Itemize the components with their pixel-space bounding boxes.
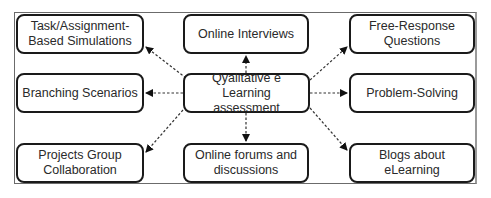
node-blogs-elearning: Blogs about eLearning — [349, 143, 475, 183]
node-branching-scenarios: Branching Scenarios — [16, 73, 144, 113]
node-label-line2: Questions — [369, 34, 455, 49]
node-label-line2: discussions — [195, 163, 297, 178]
edge-to-blogs — [310, 108, 347, 150]
node-label: Blogs about eLearning — [354, 148, 470, 178]
node-projects-collaboration: Projects GroupCollaboration — [16, 143, 144, 183]
node-online-forums: Online forums anddiscussions — [183, 143, 309, 183]
edge-to-free — [310, 47, 347, 80]
node-label: Branching Scenarios — [22, 86, 137, 101]
node-label-line1: Free-Response — [369, 19, 455, 34]
node-label: Problem-Solving — [366, 86, 458, 101]
node-label: Online Interviews — [198, 27, 294, 42]
node-label-line1: Qyalitative e Learning — [188, 71, 305, 101]
edge-to-task — [146, 47, 186, 78]
node-label-line2: Collaboration — [38, 163, 121, 178]
node-task-simulations: Task/Assignment-Based Simulations — [16, 14, 144, 54]
node-label-line1: Online forums and — [195, 148, 297, 163]
node-free-response: Free-ResponseQuestions — [349, 14, 475, 54]
node-online-interviews: Online Interviews — [183, 14, 309, 54]
edge-to-projects — [146, 110, 183, 152]
node-label-line2: Based Simulations — [28, 34, 132, 49]
node-center-assessment: Qyalitative e Learningassessment — [183, 73, 310, 113]
node-label-line1: Task/Assignment- — [28, 19, 132, 34]
node-problem-solving: Problem-Solving — [349, 73, 475, 113]
node-label-line1: Projects Group — [38, 148, 121, 163]
node-label-line2: assessment — [188, 101, 305, 116]
